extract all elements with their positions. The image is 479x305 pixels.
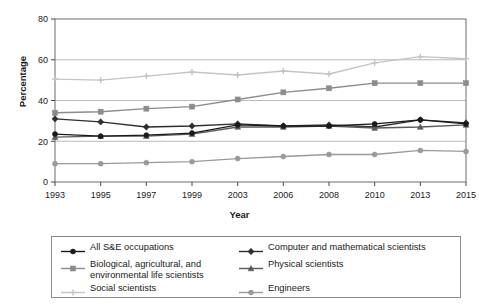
svg-text:1999: 1999 (182, 190, 202, 200)
svg-text:2013: 2013 (410, 190, 430, 200)
svg-text:2003: 2003 (228, 190, 248, 200)
series-2 (53, 81, 469, 116)
plot-area: 020406080 199319951997199920032006200820… (0, 0, 479, 230)
svg-text:60: 60 (38, 55, 48, 65)
svg-text:1997: 1997 (136, 190, 156, 200)
series-5 (53, 148, 469, 166)
legend-item: Social scientists (60, 283, 238, 298)
legend-label: Social scientists (90, 283, 156, 294)
chart-title (0, 0, 479, 2)
svg-text:1993: 1993 (45, 190, 65, 200)
legend-marker-icon (60, 263, 86, 274)
svg-text:20: 20 (38, 137, 48, 147)
chart-legend: All S&E occupationsComputer and mathemat… (51, 236, 461, 298)
svg-text:80: 80 (38, 14, 48, 24)
legend-item: All S&E occupations (60, 242, 238, 257)
legend-label: Engineers (268, 283, 310, 294)
x-axis-ticks: 1993199519971999200320062008201020132015 (45, 182, 476, 200)
svg-text:40: 40 (38, 96, 48, 106)
svg-text:2008: 2008 (319, 190, 339, 200)
svg-text:2015: 2015 (456, 190, 476, 200)
legend-marker-icon (238, 287, 264, 298)
legend-item: Engineers (238, 283, 454, 298)
data-series-layer (52, 54, 469, 166)
legend-item: Computer and mathematical scientists (238, 242, 454, 257)
legend-label: Physical scientists (268, 259, 343, 270)
y-axis-ticks: 020406080 (38, 14, 55, 187)
svg-text:2010: 2010 (365, 190, 385, 200)
svg-text:2006: 2006 (273, 190, 293, 200)
legend-marker-icon (60, 287, 86, 298)
y-axis-label: Percentage (17, 42, 28, 122)
svg-text:0: 0 (43, 177, 48, 187)
chart-figure: 020406080 199319951997199920032006200820… (0, 0, 479, 305)
legend-item: Biological, agricultural, and environmen… (60, 259, 238, 281)
series-0 (53, 117, 469, 138)
x-axis-label: Year (0, 209, 479, 220)
legend-label: All S&E occupations (90, 242, 174, 253)
line-chart-svg: 020406080 199319951997199920032006200820… (0, 0, 479, 230)
legend-marker-icon (238, 263, 264, 274)
gridlines (55, 60, 466, 142)
legend-label: Biological, agricultural, and environmen… (90, 259, 238, 281)
legend-label: Computer and mathematical scientists (268, 242, 426, 253)
legend-item: Physical scientists (238, 259, 454, 281)
legend-marker-icon (238, 246, 264, 257)
series-4 (52, 54, 469, 83)
legend-marker-icon (60, 246, 86, 257)
series-1 (52, 116, 469, 131)
svg-text:1995: 1995 (91, 190, 111, 200)
